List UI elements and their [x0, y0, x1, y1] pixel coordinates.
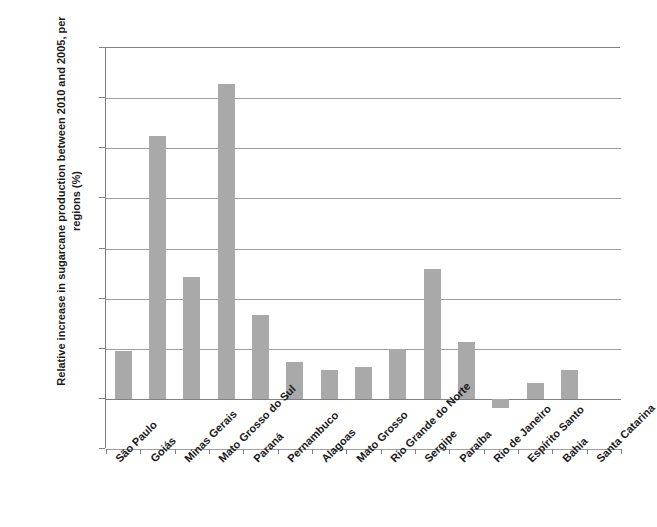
- bar-11: [492, 399, 509, 408]
- zero-baseline: [106, 399, 621, 400]
- x-tick-10: [484, 449, 485, 454]
- x-tick-6: [346, 449, 347, 454]
- bar-2: [183, 277, 200, 399]
- x-tick-11: [518, 449, 519, 454]
- x-tick-3: [243, 449, 244, 454]
- bar-6: [321, 370, 338, 399]
- bar-7: [355, 367, 372, 399]
- gridline-150: [106, 249, 621, 250]
- bar-12: [527, 383, 544, 399]
- bar-8: [389, 349, 406, 399]
- x-tick-8: [415, 449, 416, 454]
- plot-area: [105, 47, 620, 448]
- x-tick-4: [278, 449, 279, 454]
- x-tick-0: [140, 449, 141, 454]
- plot-inner: [106, 48, 620, 448]
- x-tick-5: [312, 449, 313, 454]
- x-tick-7: [381, 449, 382, 454]
- gridline-300: [106, 98, 621, 99]
- gridline-250: [106, 148, 621, 149]
- bar-9: [424, 269, 441, 399]
- x-tick-1: [175, 449, 176, 454]
- x-tick-origin: [106, 449, 107, 454]
- bar-13: [561, 370, 578, 399]
- bar-4: [252, 315, 269, 399]
- bar-3: [218, 84, 235, 399]
- x-tick-2: [209, 449, 210, 454]
- x-tick-9: [449, 449, 450, 454]
- y-tick-mark--50: [99, 448, 105, 449]
- bar-0: [115, 351, 132, 399]
- x-tick-13: [587, 449, 588, 454]
- x-tick-12: [552, 449, 553, 454]
- gridline-200: [106, 198, 621, 199]
- bar-1: [149, 136, 166, 399]
- y-axis-title: Relative increase in sugarcane productio…: [54, 16, 84, 386]
- x-tick-14: [621, 449, 622, 454]
